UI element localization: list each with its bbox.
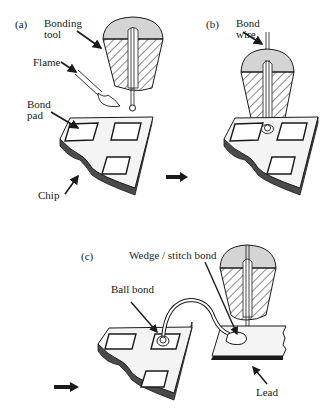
- panel-label-c: (c): [81, 251, 93, 262]
- bonding-tool-b: [241, 49, 294, 126]
- chip-a: [60, 117, 153, 195]
- panel-c: [98, 245, 286, 400]
- flow-arrow-a-to-b: [166, 172, 188, 182]
- ball-bond: [157, 336, 169, 346]
- label-lead: Lead: [256, 387, 278, 398]
- label-bond-pad: Bond pad: [27, 99, 51, 121]
- label-flame: Flame: [33, 57, 61, 68]
- label-bonding-tool: Bonding tool: [44, 18, 82, 40]
- label-wedge-stitch-bond: Wedge / stitch bond: [129, 250, 216, 261]
- label-ball-bond: Ball bond: [111, 284, 154, 295]
- panel-label-b: (b): [206, 19, 219, 30]
- panel-label-a: (a): [15, 19, 27, 30]
- chip-b: [224, 117, 318, 195]
- label-chip: Chip: [38, 190, 59, 201]
- label-bond-wire: Bond wire: [236, 18, 260, 40]
- panel-a: [51, 17, 163, 195]
- chip-c: [98, 322, 192, 400]
- leader-flame: [61, 62, 76, 72]
- panel-b: [224, 32, 318, 195]
- leader-chip: [65, 176, 78, 194]
- leader-lead: [253, 367, 267, 384]
- bonding-tool-a: [103, 17, 163, 111]
- flow-arrow-b-to-c: [54, 382, 79, 392]
